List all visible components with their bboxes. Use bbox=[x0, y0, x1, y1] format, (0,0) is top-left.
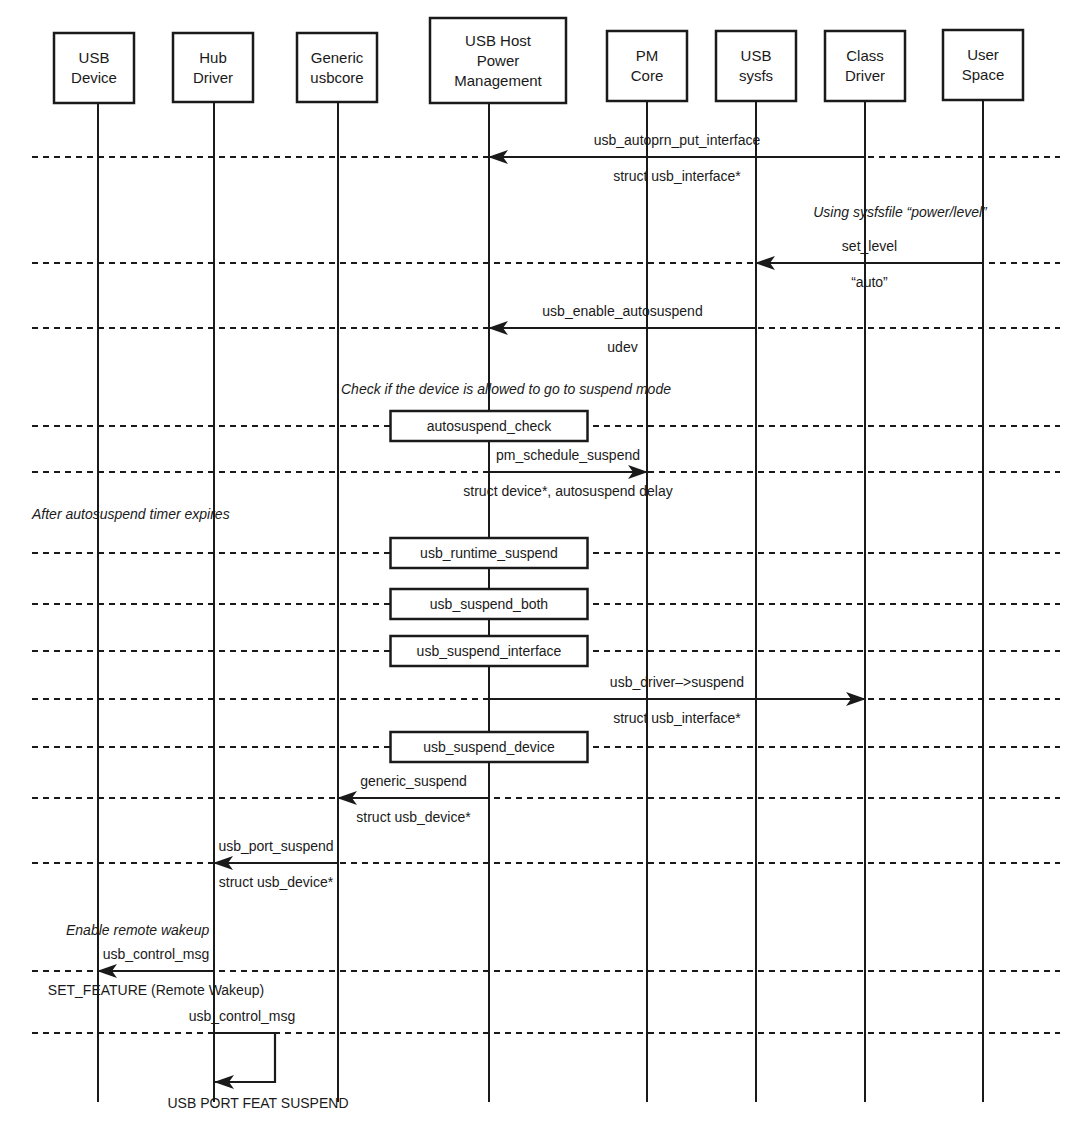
step-note: After autosuspend timer expires bbox=[31, 506, 230, 522]
participant-box bbox=[297, 33, 377, 102]
participant-label: Class bbox=[846, 47, 884, 64]
step-message: pm_schedule_suspendstruct device*, autos… bbox=[463, 447, 672, 499]
participant-usb-device: USBDevice bbox=[54, 33, 134, 103]
message-name: pm_schedule_suspend bbox=[496, 447, 640, 463]
usb-autosuspend-sequence-diagram: USBDeviceHubDriverGenericusbcoreUSB Host… bbox=[0, 0, 1074, 1130]
step-process: usb_runtime_suspend bbox=[391, 538, 588, 568]
message-argument: SET_FEATURE (Remote Wakeup) bbox=[48, 982, 264, 998]
participant-box bbox=[607, 31, 687, 101]
participant-box bbox=[943, 30, 1023, 100]
participant-hub-driver: HubDriver bbox=[173, 33, 253, 102]
sequence-steps: usb_autoprn_put_interfacestruct usb_inte… bbox=[31, 132, 988, 1111]
process-name: usb_suspend_interface bbox=[417, 643, 562, 659]
annotation-note: Using sysfsfile “power/level” bbox=[813, 204, 988, 220]
participant-label: Device bbox=[71, 69, 117, 86]
participant-label: USB Host bbox=[465, 32, 532, 49]
message-argument: struct usb_device* bbox=[219, 874, 334, 890]
message-argument: struct device*, autosuspend delay bbox=[463, 483, 672, 499]
participant-label: Driver bbox=[193, 69, 233, 86]
annotation-note: Check if the device is allowed to go to … bbox=[341, 381, 671, 397]
participant-user-space: UserSpace bbox=[943, 30, 1023, 100]
step-self: usb_control_msgUSB PORT FEAT SUSPEND bbox=[167, 1008, 348, 1111]
participant-label: Management bbox=[454, 72, 542, 89]
message-name: generic_suspend bbox=[360, 773, 467, 789]
step-message: generic_suspendstruct usb_device* bbox=[338, 773, 489, 825]
annotation-note: After autosuspend timer expires bbox=[31, 506, 230, 522]
message-name: usb_port_suspend bbox=[218, 838, 333, 854]
process-name: usb_suspend_device bbox=[423, 739, 555, 755]
message-argument: struct usb_interface* bbox=[613, 710, 741, 726]
participant-label: USB bbox=[741, 47, 772, 64]
message-name: usb_driver–>suspend bbox=[610, 674, 744, 690]
step-process: usb_suspend_device bbox=[391, 732, 588, 762]
participant-headers: USBDeviceHubDriverGenericusbcoreUSB Host… bbox=[54, 18, 1023, 103]
step-note: Enable remote wakeup bbox=[66, 922, 209, 938]
participant-usb-sysfs: USBsysfs bbox=[716, 31, 796, 101]
participant-label: Hub bbox=[199, 49, 227, 66]
message-name: usb_control_msg bbox=[103, 946, 210, 962]
participant-generic-usbcore: Genericusbcore bbox=[297, 33, 377, 102]
annotation-note: Enable remote wakeup bbox=[66, 922, 209, 938]
step-note: Using sysfsfile “power/level” bbox=[813, 204, 988, 220]
participant-pm-core: PMCore bbox=[607, 31, 687, 101]
participant-box bbox=[173, 33, 253, 102]
message-argument: udev bbox=[607, 339, 637, 355]
step-message: usb_port_suspendstruct usb_device* bbox=[214, 838, 338, 890]
message-argument: USB PORT FEAT SUSPEND bbox=[167, 1095, 348, 1111]
participant-label: USB bbox=[79, 49, 110, 66]
participant-usb-host-pm: USB HostPowerManagement bbox=[430, 18, 566, 103]
step-note: Check if the device is allowed to go to … bbox=[341, 381, 671, 397]
step-process: autosuspend_check bbox=[391, 411, 588, 441]
participant-label: Driver bbox=[845, 67, 885, 84]
message-argument: struct usb_interface* bbox=[613, 168, 741, 184]
participant-class-driver: ClassDriver bbox=[825, 31, 905, 101]
step-message: usb_autoprn_put_interfacestruct usb_inte… bbox=[489, 132, 865, 184]
process-name: autosuspend_check bbox=[427, 418, 553, 434]
participant-label: Space bbox=[962, 66, 1005, 83]
process-name: usb_runtime_suspend bbox=[420, 545, 558, 561]
process-name: usb_suspend_both bbox=[430, 596, 548, 612]
participant-box bbox=[54, 33, 134, 103]
participant-label: User bbox=[967, 46, 999, 63]
participant-label: sysfs bbox=[739, 67, 773, 84]
participant-label: Core bbox=[631, 67, 664, 84]
message-name: set_level bbox=[842, 238, 897, 254]
step-process: usb_suspend_interface bbox=[391, 636, 588, 666]
participant-box bbox=[825, 31, 905, 101]
participant-label: usbcore bbox=[310, 69, 363, 86]
message-argument: “auto” bbox=[851, 274, 888, 290]
message-name: usb_autoprn_put_interface bbox=[594, 132, 761, 148]
step-process: usb_suspend_both bbox=[391, 589, 588, 619]
step-message: set_level“auto” bbox=[756, 238, 983, 290]
participant-label: PM bbox=[636, 47, 659, 64]
step-message: usb_driver–>suspendstruct usb_interface* bbox=[489, 674, 865, 726]
step-message: usb_enable_autosuspendudev bbox=[489, 303, 756, 355]
participant-label: Power bbox=[477, 52, 520, 69]
participant-box bbox=[716, 31, 796, 101]
message-name: usb_enable_autosuspend bbox=[542, 303, 702, 319]
message-argument: struct usb_device* bbox=[356, 809, 471, 825]
self-call-arrow bbox=[214, 1033, 275, 1082]
participant-label: Generic bbox=[311, 49, 364, 66]
message-name: usb_control_msg bbox=[189, 1008, 296, 1024]
